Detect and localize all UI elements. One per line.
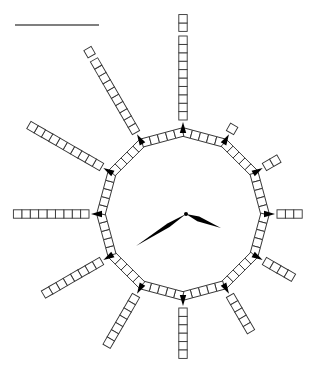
spoke-square (179, 23, 187, 31)
spoke-hour-6 (179, 308, 187, 358)
minute-hand (136, 214, 186, 246)
spoke-square (179, 342, 187, 350)
spoke-hour-3 (277, 210, 302, 218)
hour-marker-6 (180, 295, 186, 306)
spoke-square (179, 15, 187, 23)
spoke-square (179, 70, 187, 78)
spoke-square (22, 210, 30, 218)
spoke-hour-1 (226, 123, 237, 134)
hour-marker-12 (180, 122, 186, 133)
spoke-hour-10 (27, 121, 104, 170)
spoke-square (179, 325, 187, 333)
spoke-square (179, 61, 187, 69)
spoke-hour-9 (13, 210, 89, 218)
spoke-square (13, 210, 21, 218)
spoke-square (277, 210, 285, 218)
spoke-square (179, 44, 187, 52)
clock-hub (184, 212, 188, 216)
spoke-square (64, 210, 72, 218)
spoke-square (47, 210, 55, 218)
spoke-square (179, 112, 187, 120)
spoke-hour-5 (226, 293, 254, 334)
spoke-hour-2 (262, 155, 281, 171)
spoke-square (179, 333, 187, 341)
spoke-square (179, 86, 187, 94)
spoke-square (226, 123, 237, 134)
spoke-square (179, 103, 187, 111)
hour-markers (91, 122, 275, 306)
spoke-square (179, 53, 187, 61)
spoke-square (72, 210, 80, 218)
spoke-hour-4 (262, 257, 295, 281)
spoke-hour-11 (84, 46, 140, 134)
spoke-square (179, 350, 187, 358)
clock-diagram (0, 0, 313, 373)
spoke-hour-7 (103, 293, 140, 348)
spoke-square (84, 46, 95, 57)
clock-ring (97, 128, 269, 300)
spoke-square (39, 210, 47, 218)
spoke-square (285, 210, 293, 218)
spoke-square (179, 308, 187, 316)
spoke-square (179, 95, 187, 103)
clock-hands (136, 212, 221, 246)
spoke-hour-8 (41, 257, 103, 298)
spoke-square (179, 78, 187, 86)
spoke-square (179, 316, 187, 324)
spoke-square (30, 210, 38, 218)
spoke-square (179, 36, 187, 44)
hour-marker-9 (91, 211, 102, 217)
hour-marker-3 (264, 211, 275, 217)
hour-hand (186, 214, 221, 228)
spoke-square (55, 210, 63, 218)
spoke-square (294, 210, 302, 218)
spoke-hour-12 (179, 15, 187, 120)
spoke-square (81, 210, 89, 218)
